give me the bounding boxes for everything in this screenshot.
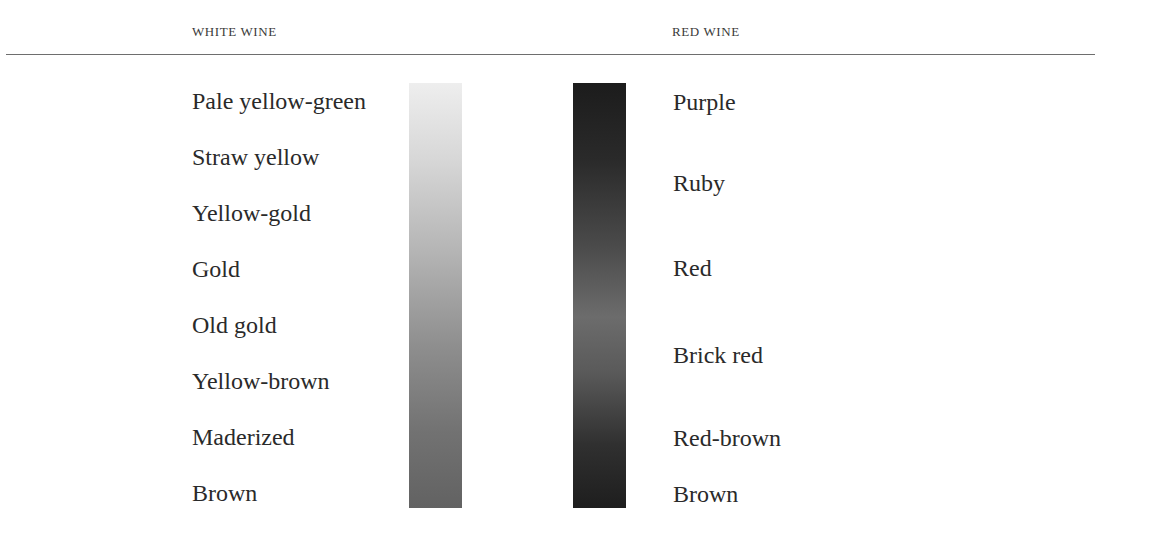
red-wine-label: Red-brown xyxy=(673,424,781,452)
red-wine-label: Purple xyxy=(673,88,736,116)
white-wine-label: Pale yellow-green xyxy=(192,87,366,115)
white-wine-color-scale xyxy=(409,83,462,508)
white-wine-label: Brown xyxy=(192,479,257,507)
red-wine-header: RED WINE xyxy=(672,24,740,40)
header-divider xyxy=(6,54,1095,55)
white-wine-header: WHITE WINE xyxy=(192,24,277,40)
red-wine-label: Red xyxy=(673,254,712,282)
white-wine-label: Yellow-brown xyxy=(192,367,330,395)
white-wine-label: Old gold xyxy=(192,311,277,339)
red-wine-color-scale xyxy=(573,83,626,508)
red-wine-label: Brick red xyxy=(673,341,763,369)
white-wine-label: Gold xyxy=(192,255,240,283)
white-wine-label: Yellow-gold xyxy=(192,199,311,227)
white-wine-label: Straw yellow xyxy=(192,143,319,171)
red-wine-label: Ruby xyxy=(673,169,725,197)
white-wine-label: Maderized xyxy=(192,423,295,451)
red-wine-label: Brown xyxy=(673,480,738,508)
